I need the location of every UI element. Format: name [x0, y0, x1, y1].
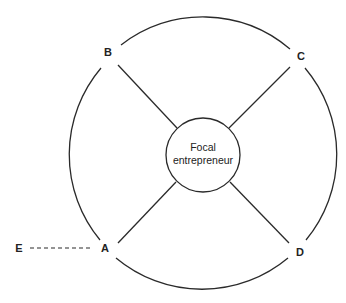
node-label-d: D — [296, 246, 304, 258]
arc-c-d — [305, 68, 337, 240]
spoke-c — [229, 67, 290, 128]
spoke-d — [230, 182, 289, 243]
node-label-a: A — [101, 242, 109, 254]
arc-d-a — [116, 258, 288, 289]
focal-label-line1: Focal — [190, 141, 216, 153]
node-label-e: E — [15, 242, 22, 254]
spoke-a — [118, 182, 176, 243]
node-label-c: C — [297, 50, 305, 62]
arc-a-b — [69, 68, 101, 240]
arc-b-c — [121, 17, 290, 49]
spoke-b — [118, 65, 177, 128]
network-diagram: Focal entrepreneur B C A D E — [0, 0, 346, 303]
focal-label-line2: entrepreneur — [173, 154, 234, 166]
node-label-b: B — [104, 46, 112, 58]
